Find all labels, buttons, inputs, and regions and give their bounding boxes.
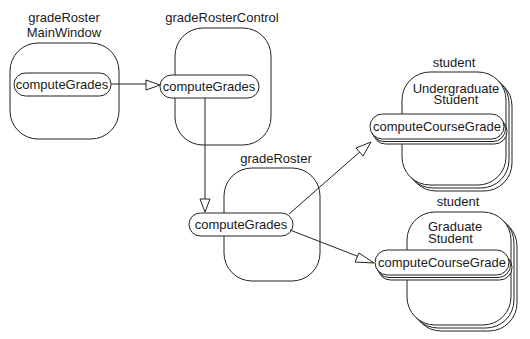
object-label: student [437, 194, 480, 209]
operation-label: computeGrades [16, 77, 109, 92]
object-label: gradeRoster [240, 151, 312, 166]
open-arrowhead-icon [355, 253, 374, 263]
object-grade-roster-main-window[interactable]: gradeRoster MainWindow computeGrades [10, 10, 119, 139]
class-name-line2: Student [434, 92, 479, 107]
object-undergraduate-student[interactable]: student Undergraduate Student computeCou… [370, 55, 512, 191]
collaboration-diagram: gradeRoster MainWindow computeGrades gra… [0, 0, 530, 339]
operation-label: computeCourseGrade [378, 255, 506, 270]
operation-label: computeGrades [195, 217, 288, 232]
operation-label: computeGrades [163, 79, 256, 94]
object-label-line1: gradeRoster [28, 10, 100, 25]
open-arrowhead-icon [146, 80, 160, 90]
class-name-line2: Student [428, 231, 473, 246]
object-graduate-student[interactable]: student Graduate Student computeCourseGr… [375, 194, 517, 331]
open-arrowhead-icon [200, 199, 210, 212]
object-label-line2: MainWindow [27, 25, 102, 40]
object-grade-roster-control[interactable]: gradeRosterControl computeGrades [160, 10, 279, 145]
operation-label: computeCourseGrade [373, 119, 501, 134]
object-label: student [433, 55, 476, 70]
object-grade-roster[interactable]: gradeRoster computeGrades [189, 151, 320, 281]
object-label: gradeRosterControl [165, 10, 279, 25]
